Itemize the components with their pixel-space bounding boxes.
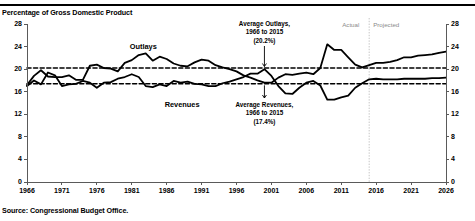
y-tick-left: [24, 159, 27, 160]
y-tick-right: [446, 46, 449, 47]
x-tick-label: 1971: [47, 187, 77, 194]
x-tick-label: 2021: [396, 187, 426, 194]
annotation-outlays-line2: 1966 to 2015: [214, 28, 314, 36]
y-tick-left: [24, 136, 27, 137]
y-tick-label-right: 8: [451, 133, 467, 140]
x-tick: [411, 182, 412, 185]
y-tick-right: [446, 24, 449, 25]
y-tick-label-left: 12: [6, 110, 22, 117]
y-tick-label-left: 24: [6, 43, 22, 50]
y-tick-label-right: 0: [451, 178, 467, 185]
projected-label: Projected: [373, 21, 399, 28]
y-tick-right: [446, 114, 449, 115]
x-tick-label: 1986: [152, 187, 182, 194]
y-tick-label-left: 4: [6, 155, 22, 162]
series-label-revenues: Revenues: [165, 100, 200, 109]
x-tick-label: 1976: [82, 187, 112, 194]
y-tick-left: [24, 114, 27, 115]
actual-label: Actual: [342, 21, 359, 28]
y-tick-label-left: 16: [6, 88, 22, 95]
x-tick-label: 2026: [431, 187, 461, 194]
y-tick-left: [24, 69, 27, 70]
top-rule: [0, 4, 475, 6]
chart-subtitle: Percentage of Gross Domestic Product: [2, 8, 132, 17]
x-tick: [131, 182, 132, 185]
x-tick: [236, 182, 237, 185]
annotation-average-revenues: Average Revenues, 1966 to 2015 (17.4%): [214, 101, 314, 126]
annotation-average-outlays: Average Outlays, 1966 to 2015 (20.2%): [214, 20, 314, 45]
y-tick-left: [24, 46, 27, 47]
y-tick-right: [446, 69, 449, 70]
annotation-revenues-line2: 1966 to 2015: [214, 109, 314, 117]
annotation-outlays-line3: (20.2%): [214, 37, 314, 45]
annotation-arrow-revenues: [262, 85, 266, 98]
x-tick-label: 2011: [326, 187, 356, 194]
y-tick-right: [446, 136, 449, 137]
annotation-outlays-line1: Average Outlays,: [214, 20, 314, 28]
x-tick: [61, 182, 62, 185]
x-tick: [96, 182, 97, 185]
y-tick-label-right: 12: [451, 110, 467, 117]
x-tick-label: 2016: [361, 187, 391, 194]
y-tick-right: [446, 159, 449, 160]
x-tick-label: 1996: [222, 187, 252, 194]
source-note: Source: Congressional Budget Office.: [2, 206, 128, 215]
y-tick-label-left: 28: [6, 20, 22, 27]
annotation-revenues-line3: (17.4%): [214, 118, 314, 126]
series-label-outlays: Outlays: [130, 42, 157, 51]
x-tick-label: 1991: [187, 187, 217, 194]
x-tick-label: 2006: [291, 187, 321, 194]
x-tick: [306, 182, 307, 185]
x-tick: [166, 182, 167, 185]
y-tick-label-right: 4: [451, 155, 467, 162]
x-tick-label: 2001: [256, 187, 286, 194]
y-tick-label-right: 24: [451, 43, 467, 50]
x-tick-label: 1981: [117, 187, 147, 194]
y-tick-left: [24, 24, 27, 25]
chart-figure: Percentage of Gross Domestic Product 004…: [0, 0, 475, 221]
y-tick-label-left: 8: [6, 133, 22, 140]
y-tick-label-left: 0: [6, 178, 22, 185]
y-tick-left: [24, 91, 27, 92]
y-tick-label-left: 20: [6, 65, 22, 72]
x-tick: [271, 182, 272, 185]
x-tick: [27, 182, 28, 185]
annotation-revenues-line1: Average Revenues,: [214, 101, 314, 109]
x-tick: [201, 182, 202, 185]
annotation-arrow-outlays: [262, 46, 266, 67]
x-tick: [341, 182, 342, 185]
x-tick-label: 1966: [12, 187, 42, 194]
y-tick-label-right: 28: [451, 20, 467, 27]
x-tick: [446, 182, 447, 185]
y-tick-right: [446, 91, 449, 92]
y-tick-label-right: 16: [451, 88, 467, 95]
y-tick-label-right: 20: [451, 65, 467, 72]
x-tick: [376, 182, 377, 185]
